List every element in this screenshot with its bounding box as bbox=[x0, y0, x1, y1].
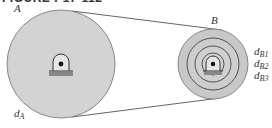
pulley-a-diameter-label: dA bbox=[14, 108, 24, 121]
belt-drive-diagram bbox=[0, 0, 272, 128]
pulley-b-label: B bbox=[211, 15, 218, 26]
pulley-b-diameter-3-label: dB3 bbox=[254, 70, 268, 83]
pulley-a-label: A bbox=[14, 3, 21, 14]
pulley-b bbox=[178, 29, 248, 99]
pulley-a bbox=[7, 10, 115, 118]
